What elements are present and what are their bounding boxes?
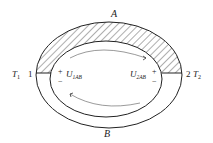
right-minus: − bbox=[152, 77, 157, 86]
label-b: B bbox=[104, 128, 110, 139]
node-1-label: 1 bbox=[28, 69, 33, 79]
right-plus: + bbox=[152, 67, 157, 76]
left-plus: + bbox=[58, 67, 63, 76]
node-2-label: 2 bbox=[186, 69, 191, 79]
label-a: A bbox=[110, 8, 118, 19]
thermocouple-diagram: A B T1 1 2 T2 + − U1AB U2AB + − bbox=[0, 0, 213, 143]
current-arrow-bottom bbox=[70, 94, 140, 106]
left-minus: − bbox=[58, 77, 63, 86]
